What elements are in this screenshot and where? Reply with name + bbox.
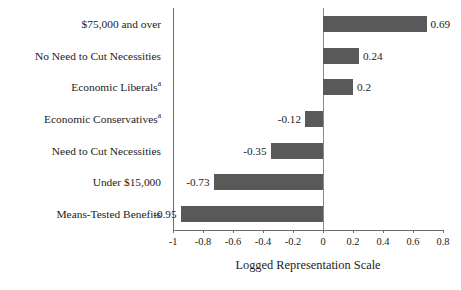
x-tick-mark [353,230,354,233]
x-tick-label: 0.8 [437,236,450,248]
x-tick-mark [413,230,414,233]
x-axis-title: Logged Representation Scale [173,258,443,273]
category-label: Economic Liberalsa [0,81,161,93]
bar [305,111,323,127]
bar-value-label: 0.69 [431,16,451,32]
x-tick-mark [233,230,234,233]
axis-bottom-spine [173,230,443,231]
footnote-marker: a [158,111,161,120]
bar-value-label: 0.24 [363,48,383,64]
x-tick-label: 0 [320,236,325,248]
category-label: Need to Cut Necessities [0,145,161,157]
bar [181,206,324,222]
category-label: No Need to Cut Necessities [0,50,161,62]
x-tick-mark [293,230,294,233]
bar [271,143,324,159]
footnote-marker: a [158,79,161,88]
bar [323,79,353,95]
bar-value-label: -0.95 [153,206,176,222]
zero-reference-line [323,8,324,230]
x-tick-label: 0.2 [347,236,360,248]
bar-value-label: -0.73 [186,174,209,190]
category-label: Economic Conservativesa [0,113,161,125]
bar-value-label: 0.2 [357,79,371,95]
x-tick-label: -0.2 [285,236,301,248]
category-label: Under $15,000 [0,176,161,188]
bar [214,174,324,190]
x-tick-mark [443,230,444,233]
x-tick-label: -0.8 [195,236,211,248]
x-tick-mark [323,230,324,233]
category-axis-labels: $75,000 and overNo Need to Cut Necessiti… [0,8,167,230]
bar-value-label: -0.12 [278,111,301,127]
x-tick-label: 0.6 [407,236,420,248]
bar-value-label: -0.35 [243,143,266,159]
x-tick-label: -0.4 [255,236,271,248]
plot-area: 0.690.240.2-0.12-0.35-0.73-0.95 -1-0.8-0… [173,8,443,230]
bar [323,48,359,64]
x-tick-label: 0.4 [377,236,390,248]
x-tick-mark [173,230,174,233]
bar [323,16,427,32]
x-tick-mark [383,230,384,233]
x-tick-label: -0.6 [225,236,241,248]
x-tick-label: -1 [169,236,178,248]
category-label: $75,000 and over [0,18,161,30]
x-tick-mark [203,230,204,233]
axis-left-spine [173,8,174,230]
bar-chart: $75,000 and overNo Need to Cut Necessiti… [0,0,461,290]
x-tick-mark [263,230,264,233]
category-label: Means-Tested Benefits [0,208,161,220]
